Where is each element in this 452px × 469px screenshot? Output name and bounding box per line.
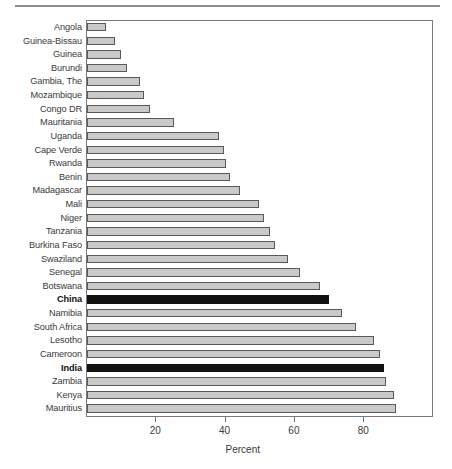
category-label-gambia-the: Gambia, The: [0, 75, 82, 88]
category-label-india: India: [0, 362, 82, 375]
bar-kenya: [87, 391, 394, 399]
bar-zambia: [87, 377, 386, 385]
bar-row: [87, 389, 432, 402]
category-label-rwanda: Rwanda: [0, 157, 82, 170]
category-label-zambia: Zambia: [0, 375, 82, 388]
bar-botswana: [87, 282, 320, 290]
bar-india: [87, 364, 384, 372]
bar-row: [87, 293, 432, 306]
bar-row: [87, 75, 432, 88]
category-label-cape-verde: Cape Verde: [0, 144, 82, 157]
bar-burundi: [87, 64, 127, 72]
bar-angola: [87, 23, 106, 31]
bar-row: [87, 198, 432, 211]
bar-row: [87, 130, 432, 143]
category-label-mali: Mali: [0, 198, 82, 211]
category-label-angola: Angola: [0, 21, 82, 34]
category-label-lesotho: Lesotho: [0, 334, 82, 347]
bar-row: [87, 62, 432, 75]
bar-namibia: [87, 309, 342, 317]
bar-row: [87, 321, 432, 334]
bars-layer: [87, 21, 432, 416]
value-axis: Percent 20406080: [0, 417, 452, 469]
bar-guinea-bissau: [87, 37, 115, 45]
category-label-mauritania: Mauritania: [0, 116, 82, 129]
tick-mark-60: [294, 417, 295, 422]
bar-cameroon: [87, 350, 380, 358]
bar-gambia-the: [87, 77, 140, 85]
category-label-niger: Niger: [0, 212, 82, 225]
tick-label-40: 40: [219, 425, 230, 436]
bar-lesotho: [87, 336, 374, 344]
category-label-namibia: Namibia: [0, 307, 82, 320]
bar-row: [87, 348, 432, 361]
bar-row: [87, 225, 432, 238]
bar-congo-dr: [87, 105, 150, 113]
bar-senegal: [87, 268, 300, 276]
header-rule: [15, 5, 440, 7]
category-axis-labels: AngolaGuinea-BissauGuineaBurundiGambia, …: [0, 21, 82, 416]
bar-cape-verde: [87, 146, 224, 154]
tick-mark-80: [363, 417, 364, 422]
bar-row: [87, 362, 432, 375]
bar-row: [87, 266, 432, 279]
bar-row: [87, 89, 432, 102]
tick-mark-20: [155, 417, 156, 422]
bar-rwanda: [87, 159, 226, 167]
bar-row: [87, 184, 432, 197]
bar-row: [87, 144, 432, 157]
bar-row: [87, 402, 432, 415]
category-label-botswana: Botswana: [0, 280, 82, 293]
category-label-swaziland: Swaziland: [0, 253, 82, 266]
bar-china: [87, 295, 329, 303]
bar-row: [87, 334, 432, 347]
category-label-senegal: Senegal: [0, 266, 82, 279]
bar-row: [87, 253, 432, 266]
tick-label-20: 20: [150, 425, 161, 436]
figure-container: AngolaGuinea-BissauGuineaBurundiGambia, …: [0, 0, 452, 469]
category-label-kenya: Kenya: [0, 389, 82, 402]
category-label-tanzania: Tanzania: [0, 225, 82, 238]
category-label-uganda: Uganda: [0, 130, 82, 143]
bar-row: [87, 157, 432, 170]
category-label-burkina-faso: Burkina Faso: [0, 239, 82, 252]
tick-mark-40: [225, 417, 226, 422]
bar-row: [87, 21, 432, 34]
bar-mauritius: [87, 404, 396, 412]
bar-row: [87, 48, 432, 61]
bar-row: [87, 212, 432, 225]
bar-guinea: [87, 50, 121, 58]
tick-label-80: 80: [358, 425, 369, 436]
category-label-burundi: Burundi: [0, 62, 82, 75]
bar-benin: [87, 173, 230, 181]
category-label-guinea-bissau: Guinea-Bissau: [0, 35, 82, 48]
category-label-mauritius: Mauritius: [0, 402, 82, 415]
bar-south-africa: [87, 323, 356, 331]
bar-swaziland: [87, 255, 288, 263]
bar-row: [87, 171, 432, 184]
bar-uganda: [87, 132, 219, 140]
bar-mali: [87, 200, 259, 208]
bar-row: [87, 103, 432, 116]
bar-burkina-faso: [87, 241, 275, 249]
category-label-mozambique: Mozambique: [0, 89, 82, 102]
category-label-china: China: [0, 293, 82, 306]
bar-mauritania: [87, 118, 174, 126]
bar-row: [87, 116, 432, 129]
category-label-cameroon: Cameroon: [0, 348, 82, 361]
category-label-south-africa: South Africa: [0, 321, 82, 334]
bar-row: [87, 280, 432, 293]
category-label-madagascar: Madagascar: [0, 184, 82, 197]
tick-label-60: 60: [288, 425, 299, 436]
axis-title-percent: Percent: [0, 444, 452, 455]
bar-row: [87, 307, 432, 320]
bar-row: [87, 375, 432, 388]
category-label-congo-dr: Congo DR: [0, 103, 82, 116]
bar-tanzania: [87, 227, 270, 235]
bar-niger: [87, 214, 264, 222]
bar-mozambique: [87, 91, 144, 99]
bar-row: [87, 239, 432, 252]
bar-row: [87, 35, 432, 48]
bar-madagascar: [87, 186, 240, 194]
category-label-benin: Benin: [0, 171, 82, 184]
